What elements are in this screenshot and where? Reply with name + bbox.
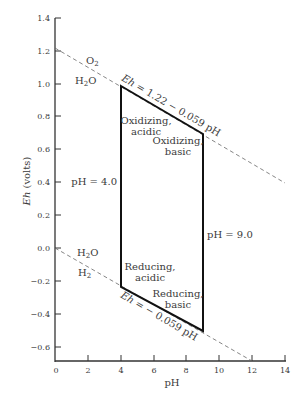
x-tick-label: 0 <box>53 366 58 375</box>
x-tick-labels: 0 2 4 6 8 10 12 14 <box>53 366 290 375</box>
y-axis-label: Eh (volts) <box>21 157 32 207</box>
y-tick-label: 0.4 <box>37 178 50 187</box>
y-tick-label: −0.4 <box>31 310 50 319</box>
y-tick-labels: 1.4 1.2 1.0 0.8 0.6 0.4 0.2 0.0 −0.2 −0.… <box>31 14 50 352</box>
y-tick-label: −0.2 <box>31 277 50 286</box>
y-tick-label: 1.4 <box>37 14 50 23</box>
x-tick-label: 12 <box>247 366 257 375</box>
x-tick-label: 10 <box>214 366 224 375</box>
y-axis-label-units: (volts) <box>21 157 32 192</box>
x-tick-label: 14 <box>280 366 290 375</box>
y-tick-label: 1.0 <box>37 80 50 89</box>
reducing-basic-label: Reducing,basic <box>152 288 203 310</box>
y-tick-label: 0.6 <box>37 145 50 154</box>
x-ticks <box>88 355 285 361</box>
oxidizing-basic-label: Oxidizing,basic <box>152 135 203 157</box>
y-ticks <box>55 18 61 347</box>
y-tick-label: 1.2 <box>37 47 50 56</box>
ph-9-label: pH = 9.0 <box>207 229 253 240</box>
x-axis-label: pH <box>164 377 179 388</box>
h2o-upper-label: H2O <box>75 75 96 88</box>
x-tick-label: 4 <box>118 366 123 375</box>
y-tick-label: 0.2 <box>37 211 50 220</box>
oxidizing-acidic-label: Oxidizing,acidic <box>120 115 171 137</box>
h2o-lower-label: H2O <box>77 247 98 260</box>
x-tick-label: 8 <box>183 366 188 375</box>
y-tick-label: 0.0 <box>37 244 50 253</box>
reducing-acidic-label: Reducing,acidic <box>124 261 175 283</box>
x-tick-label: 6 <box>151 366 156 375</box>
o2-label: O2 <box>86 55 99 68</box>
eh-ph-chart: 1.4 1.2 1.0 0.8 0.6 0.4 0.2 0.0 −0.2 −0.… <box>0 0 305 400</box>
y-tick-label: 0.8 <box>37 112 50 121</box>
h2-label: H2 <box>78 267 91 280</box>
y-axis-label-eh: Eh <box>21 192 32 207</box>
x-tick-label: 2 <box>85 366 90 375</box>
y-tick-label: −0.6 <box>31 343 50 352</box>
ph-4-label: pH = 4.0 <box>71 176 117 187</box>
